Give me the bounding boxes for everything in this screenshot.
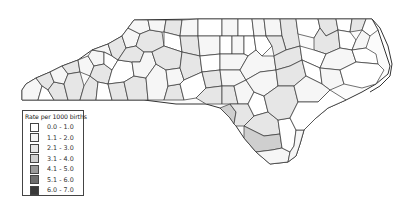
legend-label: 5.1 - 6.0 <box>47 176 74 184</box>
legend-item: 4.1 - 5.0 <box>25 164 81 175</box>
legend-item: 1.1 - 2.0 <box>25 133 81 144</box>
legend-label: 1.1 - 2.0 <box>47 134 74 142</box>
legend-label: 3.1 - 4.0 <box>47 155 74 163</box>
legend-item: 5.1 - 6.0 <box>25 175 81 186</box>
legend-swatch <box>30 133 39 142</box>
legend-swatch <box>30 186 39 195</box>
legend-item: 3.1 - 4.0 <box>25 154 81 165</box>
legend-title: Rate per 1000 births <box>25 113 81 120</box>
legend-swatch <box>30 123 39 132</box>
legend-swatch <box>30 154 39 163</box>
map-legend: Rate per 1000 births 0.0 - 1.0 1.1 - 2.0… <box>22 110 84 196</box>
legend-item: 0.0 - 1.0 <box>25 122 81 133</box>
legend-item: 6.0 - 7.0 <box>25 185 81 196</box>
county-group-west <box>22 20 184 100</box>
legend-swatch <box>30 144 39 153</box>
legend-label: 4.1 - 5.0 <box>47 165 74 173</box>
legend-swatch <box>30 175 39 184</box>
legend-label: 6.0 - 7.0 <box>47 186 74 194</box>
legend-item: 2.1 - 3.0 <box>25 143 81 154</box>
legend-label: 2.1 - 3.0 <box>47 144 74 152</box>
legend-swatch <box>30 165 39 174</box>
legend-label: 0.0 - 1.0 <box>47 123 74 131</box>
